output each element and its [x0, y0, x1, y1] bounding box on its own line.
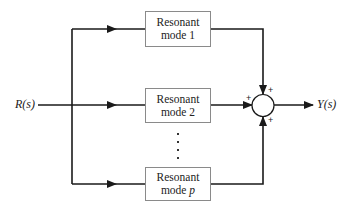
mode1-output-line — [211, 29, 263, 94]
summing-junction — [252, 95, 274, 117]
arrow-branch-2 — [107, 101, 117, 109]
arrow-branch-p — [107, 180, 117, 188]
ellipsis-dot — [177, 133, 179, 135]
block-p-line1: Resonant — [157, 171, 200, 184]
resonant-mode-p-block: Resonant mode p — [145, 167, 211, 201]
block-p-line2: mode p — [161, 184, 195, 197]
modep-output-line — [211, 117, 263, 184]
plus-sign-left: + — [246, 93, 251, 103]
input-label: R(s) — [15, 97, 35, 112]
block-1-line2: mode 1 — [161, 29, 195, 42]
resonant-mode-2-block: Resonant mode 2 — [145, 88, 211, 123]
arrow-branch-1 — [107, 25, 117, 33]
ellipsis-dot — [177, 141, 179, 143]
plus-sign-bottom: + — [268, 115, 273, 125]
block-p-prefix: mode — [161, 184, 189, 196]
block-2-line1: Resonant — [157, 93, 200, 106]
ellipsis-dot — [177, 149, 179, 151]
resonant-mode-1-block: Resonant mode 1 — [145, 11, 211, 47]
block-2-line2: mode 2 — [161, 106, 195, 119]
ellipsis-dot — [177, 157, 179, 159]
block-1-line1: Resonant — [157, 16, 200, 29]
plus-sign-top: + — [268, 85, 273, 95]
block-p-var: p — [189, 184, 195, 196]
output-label: Y(s) — [317, 97, 336, 112]
